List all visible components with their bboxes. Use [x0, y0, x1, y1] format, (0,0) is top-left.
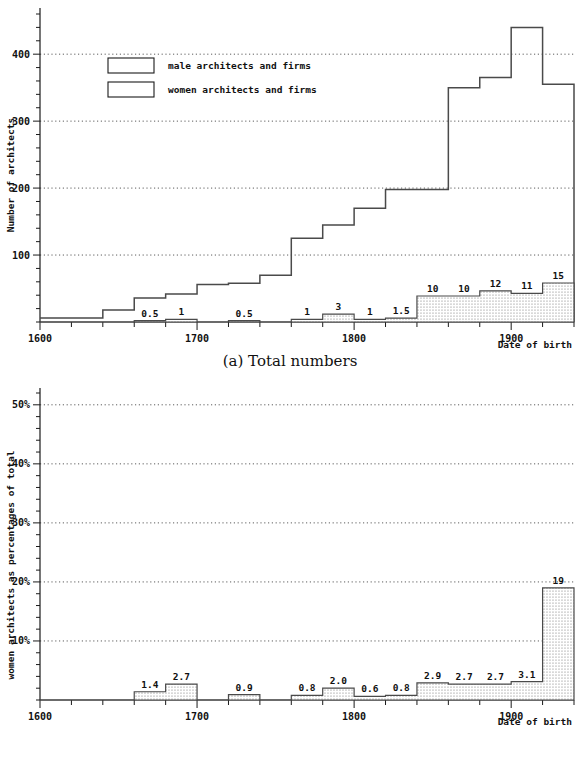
- women-value-label: 0.5: [236, 308, 253, 319]
- percentage-value-label: 0.8: [393, 682, 410, 693]
- percentage-value-label: 2.7: [487, 671, 504, 682]
- chart-a-caption: (a) Total numbers: [0, 352, 580, 370]
- chart-b-x-axis-title: Date of birth: [498, 716, 572, 727]
- women-value-label: 1.5: [393, 305, 410, 316]
- figure-architects-by-birth-date: 0.510.51311.51010121115 1002003004001600…: [0, 0, 580, 776]
- chart-b-axes: [33, 388, 574, 708]
- percentage-value-label: 0.6: [361, 683, 378, 694]
- women-value-label: 10: [458, 283, 470, 294]
- y-tick-label: 50%: [12, 399, 30, 410]
- women-value-label: 1: [178, 306, 184, 317]
- x-tick-label: 1700: [185, 333, 209, 344]
- x-tick-label: 1800: [342, 711, 366, 722]
- x-tick-label: 1700: [185, 711, 209, 722]
- percentage-value-label: 2.0: [330, 675, 347, 686]
- percentage-value-label: 1.4: [141, 679, 158, 690]
- percentage-value-label: 19: [553, 575, 565, 586]
- percentage-value-label: 2.9: [424, 670, 441, 681]
- chart-b-svg: 1.42.70.90.82.00.60.82.92.72.73.119 10%2…: [0, 380, 580, 748]
- women-value-label: 11: [521, 280, 533, 291]
- chart-b-data-labels: 1.42.70.90.82.00.60.82.92.72.73.119: [141, 575, 564, 695]
- women-value-label: 1: [367, 306, 373, 317]
- chart-b-y-axis-title: women architects as percentages of total: [5, 450, 16, 679]
- percentage-value-label: 2.7: [455, 671, 472, 682]
- panel-a-total-numbers: 0.510.51311.51010121115 1002003004001600…: [0, 0, 580, 380]
- percentage-value-label: 2.7: [173, 671, 190, 682]
- women-value-label: 15: [553, 270, 565, 281]
- women-value-label: 1: [304, 306, 310, 317]
- legend-swatch-male: [108, 58, 154, 73]
- women-value-label: 12: [490, 278, 501, 289]
- y-tick-label: 100: [12, 250, 30, 261]
- women-value-label: 0.5: [141, 308, 158, 319]
- women-value-label: 3: [336, 301, 342, 312]
- women-value-label: 10: [427, 283, 439, 294]
- x-tick-label: 1600: [28, 711, 52, 722]
- panel-b-percentages: 1.42.70.90.82.00.60.82.92.72.73.119 10%2…: [0, 380, 580, 776]
- percentage-value-label: 0.9: [236, 682, 253, 693]
- chart-a-y-axis-title: Number of architects: [5, 118, 16, 232]
- x-tick-label: 1600: [28, 333, 52, 344]
- legend-label-women: women architects and firms: [168, 84, 317, 95]
- chart-a-legend: male architects and firmswomen architect…: [108, 58, 317, 97]
- percentage-value-label: 0.8: [298, 682, 315, 693]
- legend-label-male: male architects and firms: [168, 60, 311, 71]
- chart-b-tick-labels: 10%20%30%40%50%1600170018001900: [12, 399, 523, 722]
- y-tick-label: 400: [12, 49, 30, 60]
- chart-a-x-axis-title: Date of birth: [498, 339, 572, 350]
- percentage-value-label: 3.1: [518, 669, 535, 680]
- chart-a-svg: 0.510.51311.51010121115 1002003004001600…: [0, 0, 580, 352]
- legend-swatch-women: [108, 82, 154, 97]
- x-tick-label: 1800: [342, 333, 366, 344]
- chart-b-gridlines: [40, 405, 574, 641]
